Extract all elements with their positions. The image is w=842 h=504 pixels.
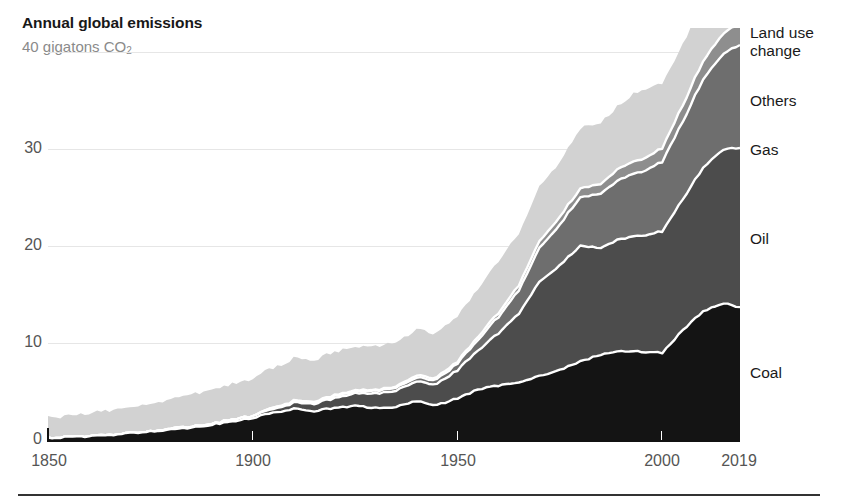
series-label-land-use-change: Land use change <box>750 24 814 60</box>
x-tick-1950: 1950 <box>427 452 489 470</box>
y-tick-30: 30 <box>8 139 42 157</box>
y-tick-10: 10 <box>8 333 42 351</box>
y-axis-spine <box>47 428 49 442</box>
x-tick-1900: 1900 <box>222 452 284 470</box>
x-tick-mark-2000 <box>661 431 662 440</box>
series-label-gas: Gas <box>750 141 778 159</box>
stacked-area-chart <box>48 28 740 440</box>
y-tick-20: 20 <box>8 236 42 254</box>
x-tick-1850: 1850 <box>18 452 80 470</box>
y-tick-0: 0 <box>8 430 42 448</box>
x-tick-mark-1950 <box>457 431 458 440</box>
series-label-coal: Coal <box>750 364 782 382</box>
x-tick-2000: 2000 <box>631 452 693 470</box>
series-group <box>48 28 740 440</box>
footer-divider <box>18 494 820 496</box>
x-axis-baseline <box>48 440 740 442</box>
emissions-figure: Annual global emissions 40 gigatons CO2 … <box>0 0 842 504</box>
plot-area <box>48 28 740 440</box>
x-tick-2019: 2019 <box>708 452 770 470</box>
x-tick-mark-1900 <box>252 431 253 440</box>
series-label-oil: Oil <box>750 230 769 248</box>
series-label-others: Others <box>750 92 797 110</box>
